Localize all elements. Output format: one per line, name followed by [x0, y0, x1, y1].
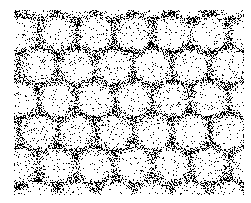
- stipple-texture-image: [0, 0, 251, 203]
